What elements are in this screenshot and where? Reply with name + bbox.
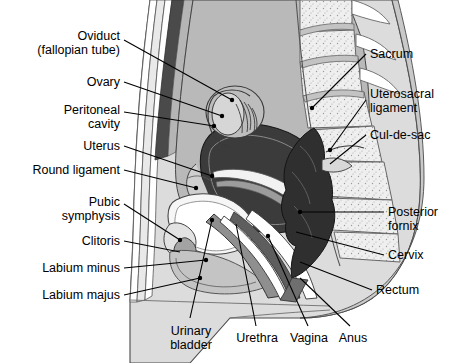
dot-pubic-symphysis [178, 238, 182, 242]
label-labium-minus: Labium minus [8, 262, 120, 276]
dot-labium-majus [198, 276, 202, 280]
dot-ovary [220, 114, 224, 118]
label-ovary: Ovary [8, 76, 120, 90]
label-rectum: Rectum [376, 284, 462, 298]
dot-uterus [210, 174, 214, 178]
label-cervix: Cervix [388, 249, 462, 263]
dot-labium-minus [204, 258, 208, 262]
dot-uterosacral-ligament [328, 148, 332, 152]
dot-vagina [266, 234, 270, 238]
label-cul-de-sac: Cul-de-sac [370, 129, 462, 143]
dot-oviduct [230, 98, 234, 102]
dot-sacrum [310, 106, 314, 110]
label-labium-majus: Labium majus [8, 289, 120, 303]
label-round-ligament: Round ligament [4, 164, 120, 178]
label-urethra: Urethra [232, 332, 282, 346]
label-urinary-bladder: Urinary bladder [160, 325, 222, 352]
label-uterus: Uterus [8, 140, 120, 154]
dot-urinary-bladder [210, 218, 214, 222]
figure-canvas: Oviduct (fallopian tube) Ovary Peritonea… [0, 0, 463, 363]
label-vagina: Vagina [285, 332, 333, 346]
label-pubic-symphysis: Pubic symphysis [8, 196, 120, 223]
dot-posterior-fornix [298, 210, 302, 214]
label-peritoneal-cavity: Peritoneal cavity [8, 104, 120, 131]
label-clitoris: Clitoris [8, 235, 120, 249]
dot-round-ligament [194, 186, 198, 190]
label-sacrum: Sacrum [370, 48, 462, 62]
label-anus: Anus [333, 332, 373, 346]
dot-peritoneal-cavity [212, 124, 216, 128]
label-posterior-fornix: Posterior fornix [388, 206, 462, 233]
label-oviduct: Oviduct (fallopian tube) [8, 30, 120, 57]
label-uterosacral-ligament: Uterosacral ligament [370, 88, 462, 115]
